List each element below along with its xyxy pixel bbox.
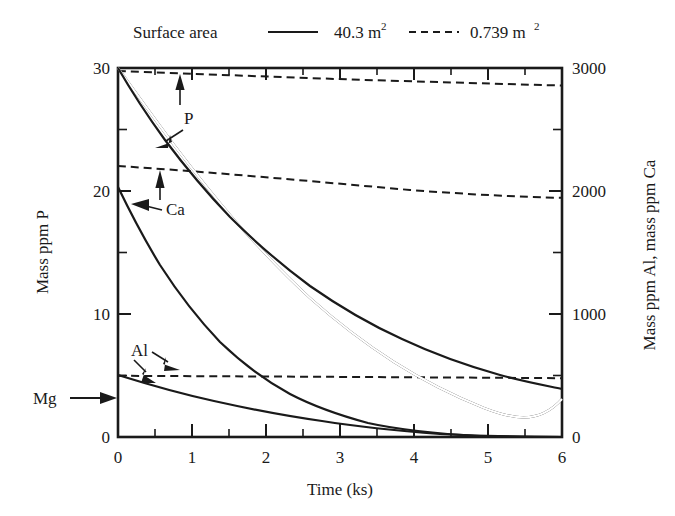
x-tick-label-2: 2	[262, 448, 271, 467]
x-axis: 0 1 2 3 4 5 6 Time (ks)	[114, 68, 567, 499]
legend-label-solid-exponent: 2	[381, 20, 387, 32]
arrow-ca-solid-head	[131, 199, 149, 211]
arrow-mg-head	[100, 392, 117, 404]
legend: Surface area 40.3 m 2 0.739 m 2	[133, 20, 540, 42]
arrow-p-solid-shaft	[166, 130, 183, 141]
y-left-tick-label-30: 30	[93, 59, 110, 78]
figure-container: Surface area 40.3 m 2 0.739 m 2	[0, 0, 675, 516]
arrow-al-solid-shaft	[152, 352, 168, 362]
y-axis-left-title: Mass ppm P	[33, 210, 52, 294]
legend-label-dashed: 0.739 m	[470, 23, 526, 42]
label-p: P	[184, 109, 193, 128]
legend-label-solid: 40.3 m	[334, 23, 381, 42]
chart-svg: Surface area 40.3 m 2 0.739 m 2	[0, 0, 675, 516]
arrow-al-dashed-shaft	[134, 360, 146, 372]
arrow-p-dashed-head	[175, 74, 184, 90]
y-axis-right-title: Mass ppm Al, mass ppm Ca	[640, 159, 659, 350]
arrow-al-solid-head	[163, 357, 180, 371]
y-right-tick-label-3000: 3000	[572, 59, 606, 78]
y-right-tick-label-0: 0	[572, 428, 581, 447]
x-tick-label-1: 1	[188, 448, 197, 467]
label-al: Al	[131, 341, 148, 360]
annotations: P Ca Al Mg	[33, 74, 193, 408]
curve-al-dashed	[118, 376, 562, 378]
y-right-minor-ticks	[553, 130, 562, 376]
y-left-tick-label-0: 0	[102, 428, 111, 447]
y-left-tick-label-20: 20	[93, 182, 110, 201]
x-tick-label-6: 6	[558, 448, 567, 467]
label-ca: Ca	[166, 200, 185, 219]
data-curves	[0, 0, 562, 437]
legend-label-dashed-exponent: 2	[534, 20, 540, 32]
legend-title: Surface area	[133, 23, 218, 42]
curve-ca-solid	[118, 187, 562, 437]
x-tick-label-4: 4	[410, 448, 419, 467]
y-axis-right: 0 1000 2000 3000 Mass ppm Al, mass ppm C…	[549, 59, 659, 447]
x-tick-label-3: 3	[336, 448, 345, 467]
label-mg: Mg	[33, 389, 57, 408]
x-axis-title: Time (ks)	[307, 480, 373, 499]
x-tick-label-0: 0	[114, 448, 123, 467]
y-right-tick-label-2000: 2000	[572, 182, 606, 201]
arrow-ca-dashed-head	[155, 170, 164, 188]
y-right-tick-label-1000: 1000	[572, 305, 606, 324]
curve-ca-dashed	[118, 166, 562, 198]
y-left-tick-label-10: 10	[93, 305, 110, 324]
x-tick-label-5: 5	[484, 448, 493, 467]
